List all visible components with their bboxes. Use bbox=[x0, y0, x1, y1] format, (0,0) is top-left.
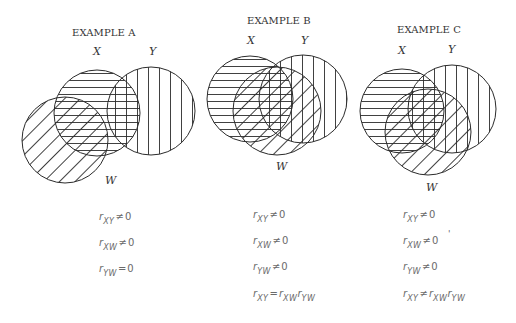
example-c-equation-4: rXY≠rXWrYW bbox=[403, 288, 465, 299]
example-b-circle-w bbox=[233, 67, 321, 155]
example-a-title: EXAMPLE A bbox=[72, 27, 136, 38]
example-c-label-y: Y bbox=[448, 43, 457, 56]
example-b-title: EXAMPLE B bbox=[247, 15, 311, 26]
example-b-equation-4: rXY=rXWrYW bbox=[253, 288, 315, 299]
example-b: EXAMPLE B X Y W bbox=[207, 15, 347, 173]
example-c: EXAMPLE C X Y W bbox=[360, 24, 496, 194]
example-c-label-w: W bbox=[426, 181, 439, 194]
example-a-equation-3: rYW=0 bbox=[99, 263, 134, 274]
example-c-equation-2: rXW≠0 bbox=[403, 235, 438, 246]
example-a-equation-1: rXY≠0 bbox=[99, 211, 131, 222]
example-b-label-x: X bbox=[246, 34, 256, 47]
example-c-equation-1: rXY≠0 bbox=[403, 209, 435, 220]
example-a: EXAMPLE A X Y W bbox=[22, 27, 195, 187]
example-a-label-w: W bbox=[105, 174, 118, 187]
example-a-equation-2: rXW≠0 bbox=[99, 237, 134, 248]
example-a-label-y: Y bbox=[149, 45, 158, 58]
example-b-equation-3: rYW≠0 bbox=[253, 261, 288, 272]
venn-diagram-figure: EXAMPLE A X Y W EXAMPLE B X Y W EXAMPLE … bbox=[0, 0, 516, 323]
example-c-circle-w bbox=[385, 89, 471, 175]
example-c-label-x: X bbox=[397, 44, 407, 57]
example-c-equation-3: rYW≠0 bbox=[403, 261, 438, 272]
example-b-label-y: Y bbox=[301, 34, 310, 47]
example-b-equation-2: rXW≠0 bbox=[253, 235, 288, 246]
example-a-label-x: X bbox=[92, 45, 102, 58]
example-b-label-w: W bbox=[276, 160, 289, 173]
stray-mark: ' bbox=[448, 229, 450, 239]
example-a-circle-w bbox=[22, 97, 108, 183]
example-c-title: EXAMPLE C bbox=[397, 24, 461, 35]
example-b-equation-1: rXY≠0 bbox=[253, 209, 285, 220]
